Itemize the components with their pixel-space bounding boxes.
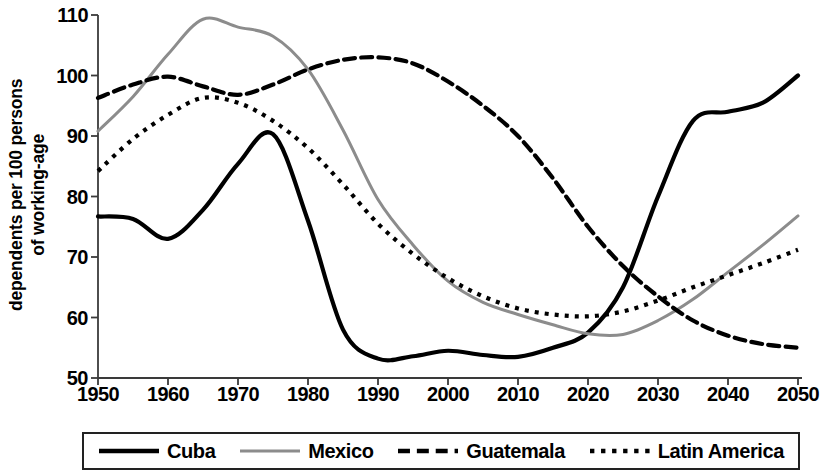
x-tick-2040: 2040 [693,383,763,406]
x-tick-1970: 1970 [203,383,273,406]
series-line-cuba [98,76,798,361]
x-tick-2050: 2050 [763,383,824,406]
x-tick-1980: 1980 [273,383,343,406]
x-tick-2020: 2020 [553,383,623,406]
legend-label-guatemala: Guatemala [466,440,565,463]
plot-area [0,0,817,400]
legend-item-cuba: Cuba [98,440,215,463]
legend-swatch-latin-america [589,444,651,458]
x-tick-1950: 1950 [63,383,133,406]
chart-svg [0,0,817,400]
series-lines [98,18,798,360]
legend-swatch-cuba [98,444,160,458]
legend-label-latin-america: Latin America [658,440,784,463]
axes [91,15,802,385]
legend-item-latin-america: Latin America [589,440,784,463]
series-line-guatemala [98,57,798,348]
x-tick-1960: 1960 [133,383,203,406]
legend-label-mexico: Mexico [308,440,373,463]
x-axis-tick-labels: 1950196019701980199020002010202020302040… [0,383,817,413]
legend-swatch-mexico [239,444,301,458]
legend-item-mexico: Mexico [239,440,373,463]
legend-item-guatemala: Guatemala [397,440,565,463]
legend-label-cuba: Cuba [167,440,215,463]
chart-legend: CubaMexicoGuatemalaLatin America [82,432,800,470]
x-tick-1990: 1990 [343,383,413,406]
x-tick-2010: 2010 [483,383,553,406]
x-tick-2000: 2000 [413,383,483,406]
x-tick-2030: 2030 [623,383,693,406]
legend-swatch-guatemala [397,444,459,458]
